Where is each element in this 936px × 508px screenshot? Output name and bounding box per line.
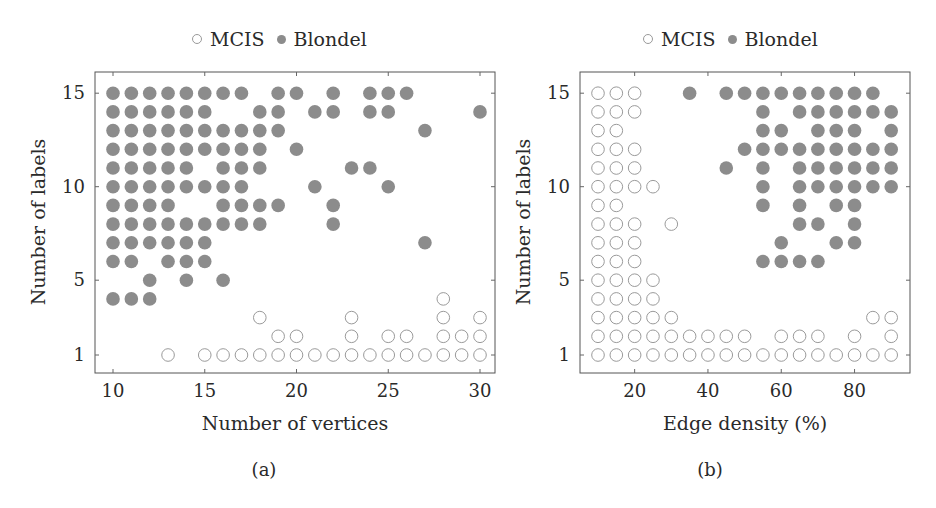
- mcis-point: [592, 237, 605, 250]
- y-axis-label-b: Number of labels: [512, 139, 534, 306]
- blondel-point: [125, 255, 139, 269]
- blondel-point: [756, 86, 770, 100]
- blondel-point: [106, 105, 120, 119]
- blondel-point: [125, 292, 139, 306]
- blondel-point: [216, 180, 230, 194]
- mcis-point: [235, 349, 248, 362]
- mcis-point: [400, 330, 413, 343]
- y-tick-label: 5: [559, 269, 570, 290]
- mcis-point: [628, 143, 641, 156]
- blondel-point: [198, 124, 212, 138]
- blondel-point: [253, 199, 267, 213]
- blondel-point: [198, 143, 212, 157]
- blondel-point: [811, 124, 825, 138]
- blondel-point: [143, 217, 157, 231]
- blondel-point: [756, 255, 770, 269]
- blondel-point: [829, 86, 843, 100]
- blondel-point: [235, 217, 249, 231]
- blondel-point: [143, 199, 157, 213]
- blondel-point: [848, 217, 862, 231]
- mcis-point: [592, 143, 605, 156]
- blondel-point: [829, 105, 843, 119]
- x-axis-label-a: Number of vertices: [202, 412, 388, 434]
- mcis-point: [198, 349, 211, 362]
- blondel-point: [180, 124, 194, 138]
- blondel-point: [381, 105, 395, 119]
- mcis-point: [309, 349, 322, 362]
- blondel-point: [125, 124, 139, 138]
- mcis-point: [592, 349, 605, 362]
- mcis-point: [474, 349, 487, 362]
- blondel-point: [848, 180, 862, 194]
- blondel-point: [125, 199, 139, 213]
- blondel-point: [829, 199, 843, 213]
- x-tick-label: 20: [285, 380, 308, 401]
- blondel-point: [106, 199, 120, 213]
- blondel-point: [253, 161, 267, 175]
- blondel-point: [774, 86, 788, 100]
- blondel-point: [161, 105, 175, 119]
- blondel-point: [473, 105, 487, 119]
- data-points-b: [592, 86, 898, 361]
- mcis-point: [592, 124, 605, 137]
- blondel-point: [180, 161, 194, 175]
- mcis-point: [592, 218, 605, 231]
- blondel-point: [125, 143, 139, 157]
- mcis-point: [345, 330, 358, 343]
- blondel-point: [793, 161, 807, 175]
- blondel-point: [829, 236, 843, 250]
- blondel-point: [161, 86, 175, 100]
- blondel-point: [161, 161, 175, 175]
- y-tick-label: 10: [547, 176, 570, 197]
- blondel-point: [774, 143, 788, 157]
- mcis-point: [665, 349, 678, 362]
- blondel-point: [811, 143, 825, 157]
- mcis-point: [592, 106, 605, 119]
- blondel-point: [216, 273, 230, 287]
- blondel-point: [106, 180, 120, 194]
- blondel-point: [848, 143, 862, 157]
- blondel-point: [829, 143, 843, 157]
- blondel-point: [161, 236, 175, 250]
- blondel-point: [848, 161, 862, 175]
- mcis-point: [592, 274, 605, 287]
- blondel-point: [106, 236, 120, 250]
- blondel-point: [756, 143, 770, 157]
- blondel-point: [253, 124, 267, 138]
- blondel-point: [793, 217, 807, 231]
- blondel-point: [848, 86, 862, 100]
- mcis-point: [867, 349, 880, 362]
- mcis-point: [647, 293, 660, 306]
- blondel-point: [106, 86, 120, 100]
- blondel-point: [143, 105, 157, 119]
- x-axis-label-b: Edge density (%): [663, 412, 827, 434]
- mcis-point: [867, 311, 880, 324]
- blondel-point: [106, 124, 120, 138]
- x-tick-label: 10: [102, 380, 125, 401]
- blondel-point: [161, 217, 175, 231]
- blondel-point: [756, 124, 770, 138]
- blondel-point: [198, 180, 212, 194]
- mcis-point: [720, 330, 733, 343]
- blondel-point: [216, 143, 230, 157]
- mcis-point: [592, 199, 605, 212]
- blondel-point: [811, 105, 825, 119]
- mcis-point: [610, 293, 623, 306]
- blondel-point: [308, 105, 322, 119]
- mcis-point: [592, 311, 605, 324]
- mcis-point: [345, 311, 358, 324]
- blondel-point: [180, 180, 194, 194]
- mcis-point: [647, 330, 660, 343]
- mcis-point: [610, 162, 623, 175]
- mcis-point: [327, 349, 340, 362]
- mcis-point: [628, 349, 641, 362]
- blondel-point: [793, 180, 807, 194]
- blondel-point: [180, 236, 194, 250]
- blondel-point: [290, 143, 304, 157]
- y-tick-label: 5: [74, 269, 85, 290]
- mcis-point: [628, 180, 641, 193]
- blondel-point: [811, 217, 825, 231]
- blondel-point: [866, 86, 880, 100]
- blondel-point: [345, 161, 359, 175]
- blondel-point: [866, 180, 880, 194]
